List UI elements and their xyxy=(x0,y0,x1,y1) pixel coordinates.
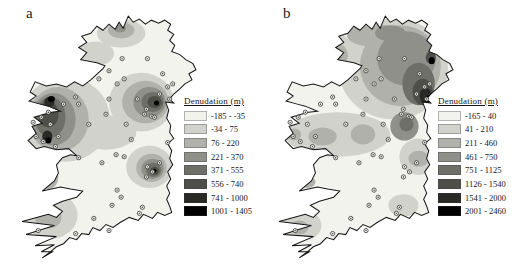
legend-swatch xyxy=(438,179,461,189)
legend-row: 461 - 750 xyxy=(438,151,512,162)
legend-swatch xyxy=(438,138,461,148)
legend-swatch xyxy=(438,206,461,216)
legend-class-label: 76 - 220 xyxy=(211,138,239,148)
legend-a-title: Denudation (m) xyxy=(184,96,258,106)
legend-row: 556 - 740 xyxy=(184,178,258,189)
legend-b-rows: -165 - 4041 - 210211 - 460461 - 750751 -… xyxy=(438,110,512,217)
legend-b-title: Denudation (m) xyxy=(438,96,512,106)
legend-class-label: 211 - 460 xyxy=(465,138,497,148)
legend-class-label: 1126 - 1540 xyxy=(465,179,506,189)
legend-b: Denudation (m) -165 - 4041 - 210211 - 46… xyxy=(438,96,512,220)
legend-swatch xyxy=(438,124,461,134)
legend-swatch xyxy=(184,193,207,203)
legend-class-label: 221 - 370 xyxy=(211,152,244,162)
legend-class-label: 741 - 1000 xyxy=(211,193,248,203)
legend-swatch xyxy=(184,179,207,189)
legend-a-rows: -185 - -35-34 - 7576 - 220221 - 370371 -… xyxy=(184,110,258,217)
legend-row: 41 - 210 xyxy=(438,124,512,135)
legend-class-label: -165 - 40 xyxy=(465,111,496,121)
legend-row: 211 - 460 xyxy=(438,137,512,148)
legend-swatch xyxy=(184,165,207,175)
ireland-map-b xyxy=(277,13,454,261)
legend-row: 371 - 555 xyxy=(184,165,258,176)
legend-swatch xyxy=(438,152,461,162)
legend-row: -165 - 40 xyxy=(438,110,512,121)
legend-class-label: 461 - 750 xyxy=(465,152,498,162)
legend-row: 1126 - 1540 xyxy=(438,178,512,189)
legend-class-label: 2001 - 2460 xyxy=(465,206,506,216)
legend-swatch xyxy=(438,165,461,175)
panel-b: b Denudation (m) -165 - 4041 - 210211 - … xyxy=(257,0,514,270)
ireland-map-a xyxy=(20,13,197,261)
legend-row: 751 - 1125 xyxy=(438,165,512,176)
legend-a: Denudation (m) -185 - -35-34 - 7576 - 22… xyxy=(184,96,258,220)
legend-swatch xyxy=(184,111,207,121)
legend-swatch xyxy=(438,193,461,203)
legend-row: 2001 - 2460 xyxy=(438,206,512,217)
legend-class-label: -185 - -35 xyxy=(211,111,245,121)
panel-b-label: b xyxy=(283,5,291,22)
legend-row: 76 - 220 xyxy=(184,137,258,148)
legend-swatch xyxy=(438,111,461,121)
legend-row: 221 - 370 xyxy=(184,151,258,162)
legend-class-label: 1541 - 2000 xyxy=(465,193,506,203)
legend-class-label: 556 - 740 xyxy=(211,179,244,189)
legend-row: 1001 - 1405 xyxy=(184,206,258,217)
legend-class-label: -34 - 75 xyxy=(211,124,238,134)
legend-row: -185 - -35 xyxy=(184,110,258,121)
denudation-maps-figure: a Denudation (m) -185 - -35-34 - 7576 - … xyxy=(0,0,514,270)
legend-class-label: 751 - 1125 xyxy=(465,165,502,175)
legend-row: -34 - 75 xyxy=(184,124,258,135)
panel-a-label: a xyxy=(26,5,33,22)
panel-a: a Denudation (m) -185 - -35-34 - 7576 - … xyxy=(0,0,257,270)
legend-row: 1541 - 2000 xyxy=(438,192,512,203)
legend-row: 741 - 1000 xyxy=(184,192,258,203)
legend-class-label: 41 - 210 xyxy=(465,124,493,134)
legend-swatch xyxy=(184,124,207,134)
legend-swatch xyxy=(184,138,207,148)
legend-swatch xyxy=(184,206,207,216)
legend-class-label: 1001 - 1405 xyxy=(211,206,252,216)
legend-swatch xyxy=(184,152,207,162)
legend-class-label: 371 - 555 xyxy=(211,165,244,175)
